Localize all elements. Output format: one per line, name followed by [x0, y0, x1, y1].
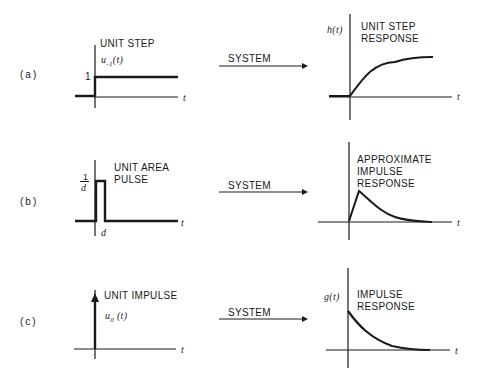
row-label-a: (a): [20, 69, 38, 80]
impulse-axis-label: t: [181, 344, 184, 356]
pulse-width-label: d: [101, 227, 106, 239]
approx-title-2: IMPULSE: [357, 166, 403, 178]
pulse-height-den: d: [81, 182, 86, 194]
impulse-response-title-1: IMPULSE: [357, 289, 403, 301]
row-label-c: (c): [20, 316, 38, 327]
impulse-response-axis-label: t: [455, 345, 458, 357]
impulse-response-symbol: g(t): [324, 291, 340, 303]
pulse-title-1: UNIT AREA: [114, 162, 169, 174]
impulse-symbol: u0 (t): [105, 310, 127, 326]
step-symbol: u-1(t): [101, 54, 123, 70]
step-response-title-1: UNIT STEP: [361, 21, 416, 33]
impulse-response-title-2: RESPONSE: [357, 301, 415, 313]
approx-title-1: APPROXIMATE: [357, 154, 432, 166]
step-axis-label: t: [183, 92, 186, 104]
system-label-c: SYSTEM: [228, 307, 271, 319]
step-response-symbol: h(t): [327, 24, 343, 36]
step-response-axis-label: t: [457, 91, 460, 103]
impulse-arrowhead-icon: [91, 293, 99, 302]
arrowhead-b: [302, 189, 308, 195]
arrowhead-c: [302, 316, 308, 322]
pulse-title-2: PULSE: [114, 174, 148, 186]
step-response-curve: [350, 57, 433, 96]
step-title: UNIT STEP: [100, 38, 155, 50]
impulse-response-curve: [348, 311, 430, 350]
approx-impulse-curve: [349, 191, 432, 222]
step-level-label: 1: [85, 71, 91, 83]
approx-axis-label: t: [457, 217, 460, 229]
pulse-signal: [75, 181, 178, 221]
system-label-b: SYSTEM: [228, 180, 271, 192]
step-response-title-2: RESPONSE: [361, 33, 419, 45]
row-label-b: (b): [20, 196, 38, 207]
pulse-axis-label: t: [181, 217, 184, 229]
arrowhead-a: [302, 63, 308, 69]
impulse-title: UNIT IMPULSE: [104, 290, 177, 302]
approx-title-3: RESPONSE: [357, 178, 415, 190]
system-label-a: SYSTEM: [228, 53, 271, 65]
